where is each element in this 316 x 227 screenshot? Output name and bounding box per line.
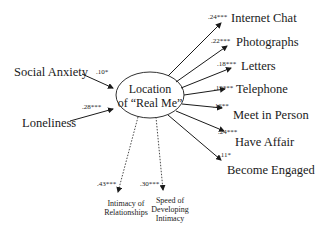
outcome-letters: Letters [241, 60, 276, 73]
coef-letters: .18*** [217, 61, 236, 68]
outcome-meet-in-person: Meet in Person [233, 109, 309, 122]
coef-telephone: .19*** [214, 85, 233, 92]
center-node-label: Location of “Real Me” [117, 82, 183, 111]
coef-intimacy: .43*** [97, 181, 116, 188]
arrow-internet-chat [168, 23, 221, 76]
coef-loneliness: .28*** [82, 104, 101, 111]
outcome-become-engaged: Become Engaged [227, 164, 315, 177]
center-node-line1: Location [117, 82, 183, 96]
intimacy-line2: Relationships [94, 208, 158, 217]
speed-line3: Intimacy [150, 214, 190, 223]
coef-speed-intimacy: .30*** [140, 181, 159, 188]
coef-meet-in-person: .16** [213, 103, 229, 110]
coef-photographs: .22*** [211, 38, 230, 45]
coef-become-engaged: .11* [219, 152, 231, 159]
outcome-intimacy-of-relationships: Intimacy of Relationships [94, 199, 158, 217]
coef-social-anxiety: .10* [96, 69, 108, 76]
outcome-have-affair: Have Affair [235, 136, 294, 149]
predictor-loneliness: Loneliness [22, 117, 76, 130]
predictor-social-anxiety: Social Anxiety [14, 66, 88, 79]
outcome-photographs: Photographs [236, 36, 299, 49]
outcome-telephone: Telephone [236, 83, 288, 96]
speed-line2: Developing [150, 205, 190, 214]
coef-internet-chat: .24*** [208, 14, 227, 21]
center-node-line2: of “Real Me” [117, 96, 183, 110]
outcome-internet-chat: Internet Chat [231, 12, 297, 25]
outcome-speed-of-developing-intimacy: Speed of Developing Intimacy [150, 196, 190, 224]
arrow-intimacy [118, 117, 138, 192]
intimacy-line1: Intimacy of [94, 199, 158, 208]
speed-line1: Speed of [150, 196, 190, 205]
arrow-become-engaged [168, 115, 221, 160]
